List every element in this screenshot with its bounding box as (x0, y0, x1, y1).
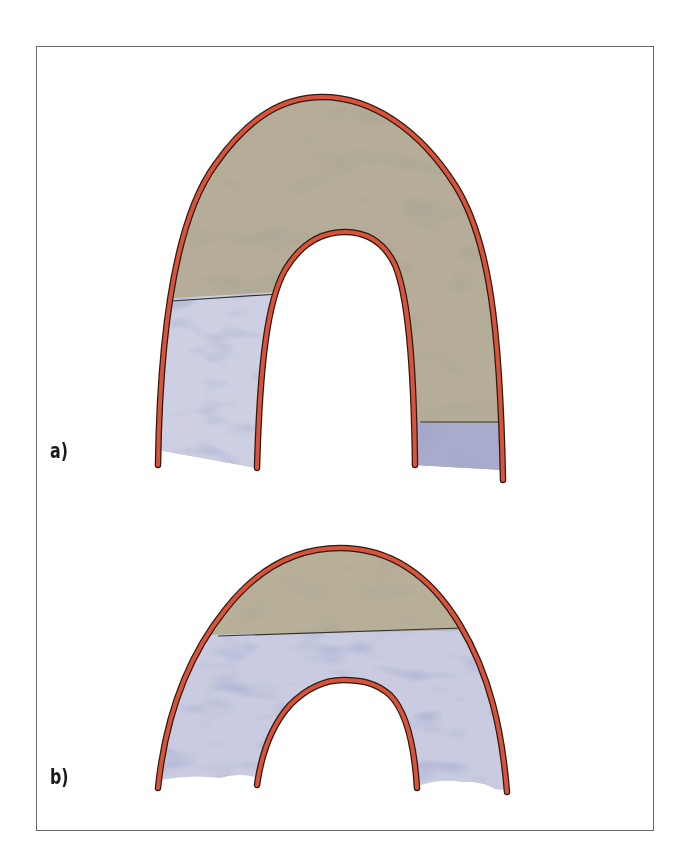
panel-a-label: a) (50, 438, 68, 463)
panel-a-arch (140, 80, 520, 503)
arch-figure (0, 0, 684, 846)
panel-b-arch (140, 530, 520, 810)
panel-b-label: b) (50, 764, 69, 789)
